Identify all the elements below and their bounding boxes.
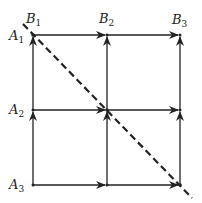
label-b3: B3 bbox=[172, 13, 187, 29]
label-a3: A3 bbox=[9, 178, 24, 194]
grid-diagram: B1 B2 B3 A1 A2 A3 bbox=[0, 0, 202, 203]
label-a1: A1 bbox=[9, 29, 24, 45]
label-a2: A2 bbox=[9, 103, 24, 119]
label-b1: B1 bbox=[26, 12, 41, 28]
label-b2: B2 bbox=[99, 12, 114, 28]
grid-graph bbox=[0, 0, 202, 203]
